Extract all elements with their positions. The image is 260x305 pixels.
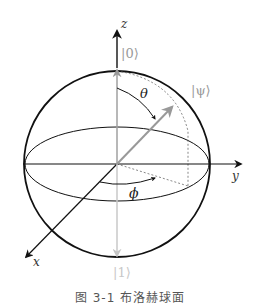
y-axis-label: y [232,170,239,182]
theta-label: θ [140,87,148,100]
psi-projection-dotted [117,164,188,186]
figure-caption: 图 3-1 布洛赫球面 [0,288,260,305]
psi-state-vector [117,107,172,164]
phi-arc [100,178,155,184]
one-state-label: |1⟩ [113,266,131,279]
zero-state-label: |0⟩ [121,47,139,60]
x-axis [26,164,117,257]
x-axis-label: x [33,256,40,268]
theta-arc [117,88,155,119]
psi-state-label: |ψ⟩ [191,84,211,97]
z-axis-label: z [121,18,127,30]
phi-label: ϕ [129,186,139,200]
